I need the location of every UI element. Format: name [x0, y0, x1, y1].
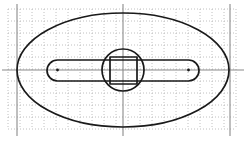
slot-right-center-mark [187, 69, 190, 72]
drawing-canvas [0, 0, 246, 150]
slot-left-center-mark [56, 69, 59, 72]
technical-drawing-svg [0, 0, 246, 150]
